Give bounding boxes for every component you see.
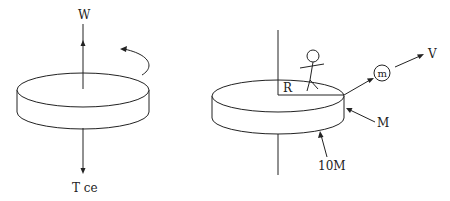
rim-pointer xyxy=(350,110,375,122)
left-figure: W T ce xyxy=(17,8,149,195)
velocity-arrow xyxy=(395,56,420,67)
up-arrow-head-icon xyxy=(81,40,86,46)
label-velocity: V xyxy=(427,47,437,61)
label-torque: T ce xyxy=(72,181,98,195)
label-rim-mass: M xyxy=(377,116,389,130)
release-arrow-head-icon xyxy=(367,78,374,83)
disk-pointer-head-icon xyxy=(318,131,324,138)
disk-pointer xyxy=(321,135,327,157)
rotation-arrow xyxy=(124,49,149,75)
label-radius: R xyxy=(283,81,293,95)
label-m: m xyxy=(378,68,388,79)
diagram-canvas: W T ce R m V M xyxy=(0,0,450,201)
label-disk-mass: 10M xyxy=(318,159,346,173)
release-arrow xyxy=(344,80,370,95)
rotation-arrow-head-icon xyxy=(120,46,127,52)
down-arrow-head-icon xyxy=(81,168,86,174)
label-w: W xyxy=(78,8,91,22)
right-figure: R m V M 10M xyxy=(212,30,437,175)
